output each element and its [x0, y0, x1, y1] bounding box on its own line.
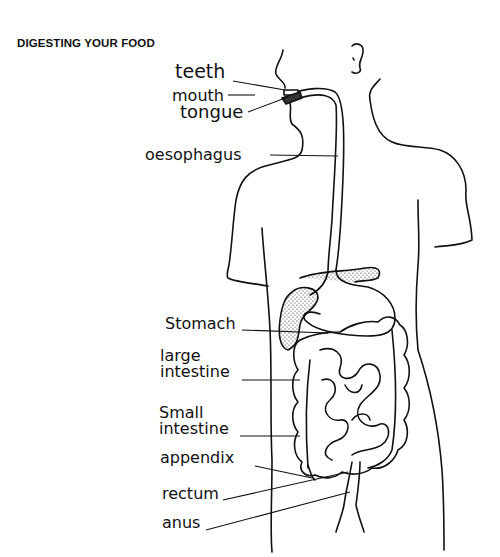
- oesophagus-tube: [288, 88, 344, 270]
- liver-outline: [300, 267, 379, 282]
- face-outline: [276, 50, 285, 88]
- digestive-system-drawing: [0, 0, 500, 557]
- large-intestine-outline: [293, 317, 410, 478]
- left-torso-outline: [262, 228, 272, 552]
- back-neck-outline: [370, 79, 472, 247]
- pointer-lines: [206, 81, 350, 530]
- small-intestine-coils: [320, 349, 389, 460]
- right-torso-outline: [416, 200, 444, 550]
